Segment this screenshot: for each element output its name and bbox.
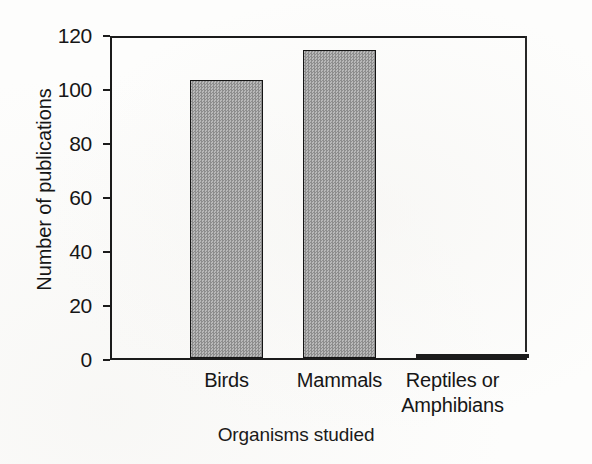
y-axis-tick-label: 0 [0,348,92,372]
x-axis-title: Organisms studied [0,424,592,446]
plot-frame-top-border [110,36,527,38]
bar-birds[interactable] [190,80,263,358]
y-axis-tick-mark [103,143,110,145]
plot-area [110,36,527,360]
plot-frame-left-axis [110,36,112,360]
y-axis-tick-mark [103,197,110,199]
chart-page: Number of publications 020406080100120 B… [0,0,592,464]
y-axis-tick-label: 40 [0,240,92,264]
plot-frame-baseline [110,358,527,360]
y-axis-tick-label: 60 [0,186,92,210]
y-axis-tick-label: 120 [0,24,92,48]
y-axis-tick-label: 20 [0,294,92,318]
y-axis-tick-mark [103,251,110,253]
plot-frame-right-border [525,36,527,352]
category-label-line: Amphibians [368,393,538,418]
y-axis-tick-label: 100 [0,78,92,102]
y-axis-tick-mark [103,359,110,361]
category-label-line: Reptiles or [368,368,538,393]
y-axis-tick-mark [103,89,110,91]
y-axis-tick-mark [103,35,110,37]
x-axis-category-label: Reptiles orAmphibians [368,368,538,418]
y-axis-tick-mark [103,305,110,307]
y-axis-tick-label: 80 [0,132,92,156]
bar-mammals[interactable] [303,50,376,358]
bar-reptiles-or-amphibians[interactable] [416,354,529,358]
